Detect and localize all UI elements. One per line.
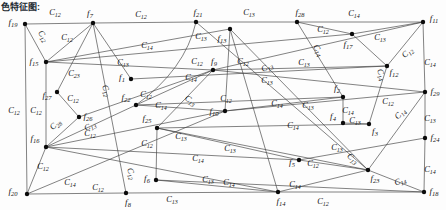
graph-edge-label: C12: [191, 56, 203, 67]
graph-edge-label: C14: [424, 164, 436, 175]
graph-edge: [25, 24, 27, 194]
graph-edge-label: C14: [223, 177, 235, 188]
graph-node-dot: [44, 145, 48, 149]
graph-edge-label: C14: [287, 120, 299, 131]
graph-edge-label: C13: [182, 93, 198, 109]
graph-edge-label: C14: [393, 174, 408, 188]
graph-node-label: f14: [276, 196, 286, 207]
graph-edge-label: C12: [49, 7, 61, 18]
graph-edge: [299, 138, 425, 160]
graph-node-dot: [366, 168, 370, 172]
graph-node-label: f6: [144, 173, 151, 184]
graph-node-label: f3: [372, 126, 379, 137]
graph-edge-label: C13: [345, 151, 361, 167]
graph-edge-label: C23: [68, 68, 80, 79]
graph-node-label: f8: [125, 197, 132, 208]
graph-node-dot: [295, 20, 299, 24]
graph-edge-label: C13: [166, 194, 178, 205]
graph-edge: [46, 111, 225, 147]
graph-canvas: C12C12C13C14C12C12C14C13C12C13C12C13C12C…: [0, 0, 446, 210]
graph-node-label: f18: [429, 186, 439, 197]
graph-edge: [213, 66, 387, 70]
graph-edge-label: C12: [124, 166, 138, 181]
graph-node-dot: [77, 115, 81, 119]
graph-node-dot: [421, 20, 425, 24]
graph-edge-label: C12: [237, 56, 249, 67]
graph-node-label: f24: [430, 132, 440, 143]
graph-node-dot: [211, 68, 215, 72]
graph-edge-label: C14: [392, 106, 408, 122]
graph-node-dot: [341, 121, 345, 125]
graph-edge-label: C13: [349, 115, 361, 126]
graph-node-dot: [367, 122, 371, 126]
graph-edge-label: C12: [141, 138, 153, 149]
graph-node-label: f22: [121, 92, 131, 103]
graph-node-label: f4: [330, 111, 337, 122]
graph-edge-label: C12: [399, 45, 415, 61]
graph-node-dot: [223, 109, 227, 113]
graph-node-dot: [423, 90, 427, 94]
graph-edge-label: C14: [342, 105, 354, 116]
graph-edge: [46, 23, 93, 62]
graph-node-dot: [423, 136, 427, 140]
graph-edge-label: C12: [67, 93, 79, 104]
graph-edge-label: C14: [64, 177, 76, 188]
graph-edge-label: C12: [30, 105, 42, 116]
graph-edge-label: C12: [99, 83, 113, 98]
graph-node-dot: [134, 103, 138, 107]
graph-edge-label: C13: [374, 32, 386, 43]
graph-node-label: f17: [343, 39, 353, 50]
graph-edge-label: C14: [348, 8, 360, 19]
graph-node-dot: [350, 32, 354, 36]
graph-edge-label: C13: [117, 57, 129, 68]
graph-edge: [46, 29, 230, 62]
graph-node-label: f13: [217, 33, 227, 44]
graph-edge-label: C12: [8, 105, 20, 116]
graph-edge-label: C14: [374, 67, 388, 82]
graph-node-label: f23: [370, 173, 380, 184]
graph-node-dot: [194, 20, 198, 24]
graph-edge-label: C12: [92, 182, 104, 193]
graph-edge: [126, 192, 278, 193]
graph-edge: [46, 147, 278, 192]
graph-edge-label: C14: [424, 57, 436, 68]
graph-edge-label: C14: [185, 72, 197, 83]
graph-edge: [25, 23, 93, 24]
graph-node-label: f7: [87, 8, 94, 19]
graph-node-label: f27: [42, 90, 52, 101]
graph-node-dot: [91, 21, 95, 25]
graph-edge-label: C13: [298, 57, 310, 68]
graph-node-label: f2: [334, 83, 341, 94]
graph-node-dot: [228, 27, 232, 31]
graph-node-dot: [23, 22, 27, 26]
graph-node-dot: [44, 60, 48, 64]
graph-edge-label: C12: [317, 196, 329, 207]
graph-edge-label: C13: [175, 131, 187, 142]
graph-node-label: f9: [211, 56, 218, 67]
graph-edge: [136, 70, 213, 105]
graph-edge: [225, 92, 425, 111]
graph-node-dot: [276, 190, 280, 194]
graph-edge: [156, 128, 157, 180]
graph-edge-label: C12: [37, 161, 49, 172]
graph-node-dot: [341, 95, 345, 99]
graph-edge: [156, 180, 278, 192]
graph-node-dot: [422, 190, 426, 194]
graph-edge: [93, 22, 196, 23]
graph-node-label: f16: [30, 133, 40, 144]
figure-caption-text: 色特征图:: [1, 0, 40, 13]
graph-node-dot: [154, 178, 158, 182]
graph-node-label: f20: [8, 186, 18, 197]
graph-edge-label: C14: [289, 179, 301, 190]
graph-edge-label: C12: [135, 9, 147, 20]
graph-node-dot: [124, 191, 128, 195]
graph-node-label: f21: [193, 7, 202, 18]
graph-node-dot: [129, 77, 133, 81]
graph-node-label: f1: [119, 72, 125, 83]
graph-edge-label: C12: [61, 32, 73, 43]
graph-edge-label: C12: [317, 24, 329, 35]
graph-edge-label: C14: [192, 153, 204, 164]
graph-node-label: f11: [430, 13, 439, 24]
graph-edge-label: C13: [202, 174, 214, 185]
graph-node-dot: [25, 192, 29, 196]
